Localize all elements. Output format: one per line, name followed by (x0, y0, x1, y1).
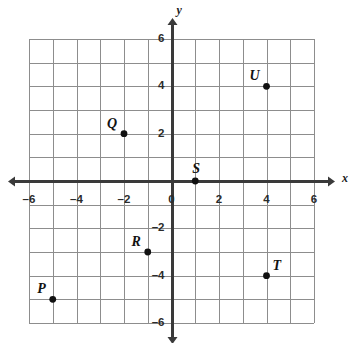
x-axis-arrow-right (328, 177, 335, 187)
point-label-t: T (273, 258, 283, 273)
y-tick-label: 6 (158, 32, 164, 44)
coordinate-plane-figure: –6–4–20246–6–4–2246 xy PQRSTU (0, 0, 350, 343)
point-label-s: S (192, 161, 200, 176)
y-tick-label: –4 (152, 269, 165, 281)
point-label-p: P (37, 281, 46, 296)
data-point-s (192, 178, 199, 185)
plotted-points: PQRSTU (37, 68, 282, 302)
x-tick-label: 0 (168, 193, 174, 205)
y-tick-label: –6 (152, 316, 165, 328)
x-axis-label: x (341, 171, 348, 185)
point-label-q: Q (107, 116, 117, 131)
y-axis-arrow-down (168, 337, 178, 343)
x-tick-label: 6 (311, 193, 317, 205)
x-tick-label: –4 (70, 193, 83, 205)
x-tick-label: –2 (118, 193, 131, 205)
x-tick-label: 4 (263, 193, 270, 205)
data-point-t (263, 272, 270, 279)
data-point-q (121, 130, 128, 137)
y-tick-label: 4 (158, 79, 165, 91)
y-axis-arrow-up (168, 18, 178, 25)
tick-labels: –6–4–20246–6–4–2246 (23, 32, 318, 328)
data-point-u (263, 83, 270, 90)
axes (8, 18, 335, 343)
y-tick-label: 2 (158, 127, 164, 139)
x-tick-label: 2 (216, 193, 222, 205)
coordinate-plane-svg: –6–4–20246–6–4–2246 xy PQRSTU (0, 0, 350, 343)
x-axis-arrow-left (8, 177, 15, 187)
data-point-r (144, 249, 151, 256)
point-label-u: U (249, 68, 260, 83)
y-tick-label: –2 (152, 221, 165, 233)
x-tick-label: –6 (23, 193, 36, 205)
point-label-r: R (130, 234, 140, 249)
y-axis-label: y (175, 3, 183, 17)
data-point-p (49, 296, 56, 303)
